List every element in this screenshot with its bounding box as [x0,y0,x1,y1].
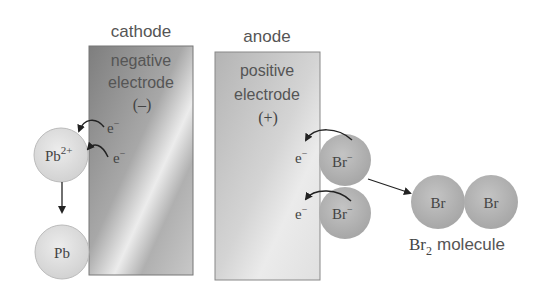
anode-sign: (+) [258,109,278,127]
lead-atom-symbol: Pb [54,245,70,261]
lead-atom: Pb [35,225,89,279]
cathode-title: cathode [111,22,172,41]
cathode-line1: negative [111,52,172,69]
cathode-line2: electrode [108,74,174,91]
molecule-label: Br2molecule [409,235,505,258]
lead-ion-symbol: Pb [45,148,61,164]
lead-ion-charge: 2+ [61,144,73,156]
bromine-atom-1: Br [431,195,446,211]
cathode: cathode negative electrode (–) [89,22,193,275]
anode-title: anode [243,27,290,46]
bromine-atom-2: Br [484,195,499,211]
oxidation-arrow [368,179,410,193]
cathode-sign: (–) [133,96,152,114]
anode-line1: positive [240,62,294,79]
electrolysis-diagram: cathode negative electrode (–) anode pos… [0,0,540,294]
bromine-molecule: Br Br Br2molecule [409,175,518,258]
anode-line2: electrode [234,86,300,103]
lead-ion: Pb2+ [34,128,88,182]
